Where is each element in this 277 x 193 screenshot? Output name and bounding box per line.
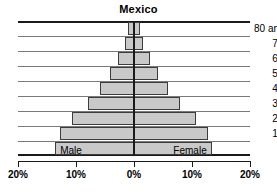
zero-axis-line xyxy=(133,21,135,156)
bar-female xyxy=(134,97,180,110)
bar-male: Male xyxy=(55,142,134,155)
x-axis-tick xyxy=(18,161,19,167)
x-axis xyxy=(18,161,250,167)
female-series-label: Female xyxy=(173,143,206,158)
x-axis-tick xyxy=(250,161,251,167)
bar-male xyxy=(88,97,134,110)
x-axis-tick-label: 0% xyxy=(127,169,141,180)
age-group-label: 20–29 xyxy=(254,111,277,126)
bar-male xyxy=(118,52,134,65)
x-axis-tick-label: 20% xyxy=(8,169,28,180)
age-group-label: 0–9 xyxy=(254,141,277,156)
bar-female xyxy=(134,67,158,80)
bar-female xyxy=(134,127,208,140)
bar-male xyxy=(110,67,134,80)
bar-female xyxy=(134,112,196,125)
x-axis-tick xyxy=(76,161,77,167)
age-group-label: 50–59 xyxy=(254,66,277,81)
bar-female xyxy=(134,37,143,50)
age-group-label: 60–69 xyxy=(254,51,277,66)
chart-title: Mexico xyxy=(0,3,277,15)
bar-female: Female xyxy=(134,142,212,155)
x-axis-tick xyxy=(134,161,135,167)
x-axis-tick-label: 10% xyxy=(182,169,202,180)
plot-area: 80 and older70–7960–6950–5940–4930–3920–… xyxy=(18,21,250,156)
x-axis-tick-label: 20% xyxy=(240,169,260,180)
age-group-label: 80 and older xyxy=(254,21,277,36)
x-axis-tick xyxy=(192,161,193,167)
age-group-label: 10–19 xyxy=(254,126,277,141)
age-group-label: 70–79 xyxy=(254,36,277,51)
bar-male xyxy=(100,82,134,95)
population-pyramid-chart: Mexico 80 and older70–7960–6950–5940–493… xyxy=(0,0,277,193)
bar-male xyxy=(72,112,134,125)
x-axis-tick-label: 10% xyxy=(66,169,86,180)
age-group-label: 40–49 xyxy=(254,81,277,96)
bar-female xyxy=(134,52,150,65)
bar-male xyxy=(60,127,134,140)
bar-female xyxy=(134,82,168,95)
male-series-label: Male xyxy=(60,143,82,158)
age-group-label: 30–39 xyxy=(254,96,277,111)
